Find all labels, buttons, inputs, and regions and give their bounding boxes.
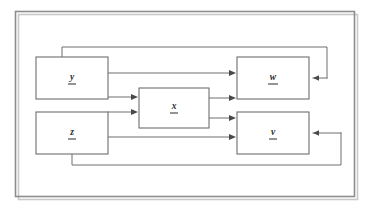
node-w-output[interactable]: w (237, 57, 309, 99)
block-diagram: y z x w v (0, 0, 375, 214)
edge-z-to-v (108, 134, 236, 140)
node-v-output[interactable]: v (237, 112, 309, 154)
node-w-label: w (270, 72, 277, 82)
node-z-label: z (69, 127, 74, 137)
edge-y-to-w (108, 70, 236, 76)
node-y-label: y (69, 72, 75, 82)
node-z-input[interactable]: z (36, 112, 108, 154)
node-x-state[interactable]: x (139, 88, 209, 128)
diagram-canvas: y z x w v (0, 0, 375, 214)
node-y-input[interactable]: y (36, 57, 108, 99)
edge-x-to-v (209, 115, 236, 121)
edge-x-to-w (209, 95, 236, 101)
node-x-label: x (171, 101, 177, 111)
edge-z-to-x (108, 109, 138, 115)
edge-y-to-x (108, 94, 138, 100)
